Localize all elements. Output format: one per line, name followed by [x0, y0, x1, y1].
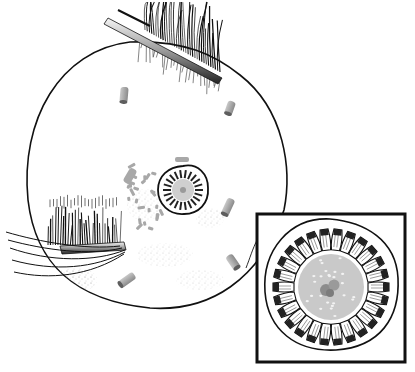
ring-segment [180, 170, 181, 178]
inset-segment [368, 282, 389, 292]
core-spot [351, 299, 354, 301]
core-spot [327, 274, 330, 276]
core-spot [352, 296, 355, 298]
central-nucleus [180, 187, 186, 193]
segment-dark-tip [273, 283, 279, 291]
segment-dark-tip [320, 229, 329, 236]
cilium [208, 23, 209, 66]
cilium [55, 207, 56, 245]
core-spot [319, 259, 322, 261]
core-spot [312, 275, 315, 277]
small-fragment [127, 197, 130, 201]
core-spot [338, 257, 341, 259]
core-spot [333, 271, 336, 273]
ring-segment [185, 170, 186, 178]
core-spot [332, 276, 335, 278]
core-spot [341, 282, 344, 284]
cilium [94, 211, 95, 245]
cell-membrane [27, 42, 287, 309]
segment-dark-tip [333, 338, 342, 345]
inset-segment [273, 282, 294, 292]
core-spot [324, 270, 327, 272]
cell [27, 42, 287, 309]
segment-dark-tip [320, 338, 329, 345]
core-spot [342, 294, 345, 296]
core-spot [330, 307, 333, 309]
cilium [165, 2, 166, 41]
core-spot [326, 301, 329, 303]
core-spot [332, 302, 335, 304]
core-spot [319, 295, 322, 297]
magnified-inset [257, 214, 405, 362]
cilium [63, 216, 64, 245]
core-spot [310, 295, 313, 297]
small-fragment [148, 208, 151, 212]
cilium [173, 2, 174, 47]
ring-segment [185, 202, 186, 210]
cilium [169, 2, 170, 44]
ring-segment [180, 202, 181, 210]
cilium [100, 223, 101, 245]
core-spot [341, 273, 344, 275]
core-spot [319, 275, 322, 277]
core-spot [313, 281, 316, 283]
cilium [178, 2, 180, 49]
core-spot [319, 308, 322, 310]
central-ring-structure [158, 166, 208, 215]
small-fragment [155, 205, 159, 210]
cilium [158, 2, 160, 38]
illustration-canvas [0, 0, 415, 372]
shaft-strand [118, 10, 150, 26]
core-spot [333, 315, 336, 317]
core-spot [331, 305, 334, 307]
core-spot [306, 300, 309, 302]
cilium [166, 2, 167, 43]
cilium [146, 2, 147, 31]
cilium [162, 2, 163, 40]
segment-dark-tip [333, 229, 342, 236]
core-spot [320, 262, 323, 264]
small-fragment [175, 157, 189, 162]
cilium [171, 2, 172, 45]
segment-dark-tip [383, 283, 389, 291]
